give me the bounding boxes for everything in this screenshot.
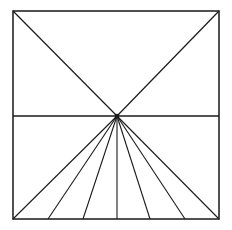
perspective-diagram xyxy=(0,0,232,230)
vanishing-point-marker xyxy=(115,114,119,118)
figure-container xyxy=(0,0,232,230)
